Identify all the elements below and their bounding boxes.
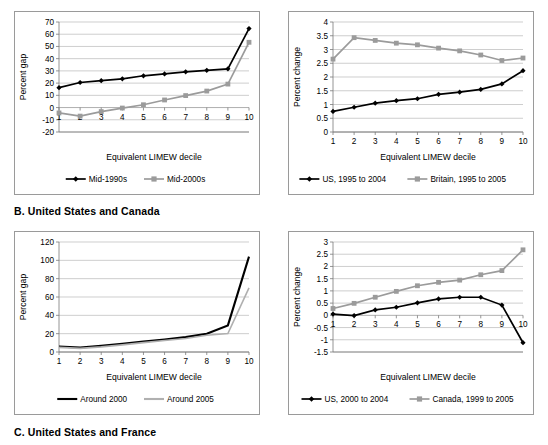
y-tick-label: 0: [323, 128, 328, 137]
x-tick-label: 6: [436, 320, 441, 329]
x-tick-label: 8: [204, 113, 209, 122]
data-point-marker: [457, 295, 462, 300]
series-line-1: [333, 297, 523, 342]
data-point-marker: [499, 58, 504, 63]
series-line-2: [59, 42, 249, 116]
legend-label: Canada, 1999 to 2005: [433, 395, 514, 404]
x-tick-label: 8: [478, 137, 483, 146]
x-tick-label: 4: [120, 113, 125, 122]
x-tick-label: 7: [183, 357, 188, 366]
x-tick-label: 4: [120, 357, 125, 366]
x-tick-label: 9: [500, 320, 505, 329]
y-tick-label: 100: [40, 256, 54, 265]
data-point-marker: [394, 41, 399, 46]
legend: US, 1995 to 2004Britain, 1995 to 2005: [299, 175, 506, 184]
y-tick-label: 3: [323, 238, 328, 247]
section-heading-c: C. United States and France: [14, 426, 156, 438]
x-tick-label: 10: [518, 137, 528, 146]
y-tick-label: 1: [323, 287, 328, 296]
data-point-marker: [352, 105, 357, 110]
y-tick-label: 50: [45, 42, 55, 51]
data-point-marker: [78, 80, 83, 85]
section-heading-b: B. United States and Canada: [14, 205, 160, 217]
data-point-marker: [352, 35, 357, 40]
chart-top-right: 00.511.522.533.5412345678910Equivalent L…: [289, 12, 533, 194]
x-axis-title: Equivalent LIMEW decile: [380, 372, 476, 382]
legend: Around 2000Around 2005: [57, 395, 214, 404]
data-point-marker: [373, 101, 378, 106]
data-point-marker: [394, 289, 399, 294]
data-point-marker: [331, 57, 336, 62]
plot-area: -1.5-1-0.500.511.522.5312345678910: [314, 238, 528, 357]
data-point-marker: [499, 268, 504, 273]
y-tick-label: 0: [323, 311, 328, 320]
data-point-marker: [521, 247, 526, 252]
chart-bottom-right: -1.5-1-0.500.511.522.5312345678910Equiva…: [289, 232, 533, 414]
data-point-marker: [141, 102, 146, 107]
x-tick-label: 6: [162, 113, 167, 122]
x-tick-label: 6: [162, 357, 167, 366]
series-line-1: [59, 29, 249, 88]
data-point-marker: [183, 69, 188, 74]
x-tick-label: 9: [226, 113, 231, 122]
x-tick-label: 10: [244, 357, 254, 366]
x-tick-label: 7: [457, 137, 462, 146]
legend-label: Britain, 1995 to 2005: [430, 175, 506, 184]
x-tick-label: 8: [204, 357, 209, 366]
y-tick-label: 20: [45, 79, 55, 88]
data-point-marker: [330, 312, 335, 317]
y-axis-title: Percent gap: [18, 274, 28, 321]
figure-page: -20-1001020304050607012345678910Equivale…: [0, 0, 548, 445]
y-tick-label: 30: [45, 67, 55, 76]
y-axis-title: Percent change: [292, 267, 302, 327]
x-tick-label: 5: [141, 113, 146, 122]
data-point-marker: [352, 313, 357, 318]
y-tick-label: 10: [45, 91, 55, 100]
x-tick-label: 9: [500, 137, 505, 146]
data-point-marker: [330, 109, 335, 114]
data-point-marker: [478, 272, 483, 277]
legend-label: Around 2005: [167, 395, 214, 404]
y-tick-label: 20: [45, 330, 55, 339]
data-point-marker: [373, 307, 378, 312]
x-tick-label: 3: [373, 137, 378, 146]
plot-area: -20-1001020304050607012345678910: [42, 18, 254, 137]
legend-label: Mid-2000s: [167, 175, 205, 184]
data-point-marker: [394, 305, 399, 310]
data-point-marker: [394, 98, 399, 103]
data-point-marker: [415, 283, 420, 288]
data-point-marker: [56, 85, 61, 90]
legend-swatch-marker: [309, 396, 315, 402]
y-tick-label: 60: [45, 293, 55, 302]
data-point-marker: [78, 114, 83, 119]
y-axis-title: Percent change: [292, 47, 302, 107]
x-tick-label: 3: [373, 320, 378, 329]
data-point-marker: [99, 109, 104, 114]
y-tick-label: -0.5: [314, 324, 329, 333]
y-tick-label: 80: [45, 275, 55, 284]
y-axis-title: Percent gap: [18, 54, 28, 101]
data-point-marker: [478, 295, 483, 300]
x-tick-label: 9: [226, 357, 231, 366]
data-point-marker: [183, 93, 188, 98]
y-tick-label: -20: [42, 128, 54, 137]
data-point-marker: [120, 106, 125, 111]
data-point-marker: [352, 301, 357, 306]
y-tick-label: 0: [49, 348, 54, 357]
data-point-marker: [120, 76, 125, 81]
x-tick-label: 5: [141, 357, 146, 366]
x-tick-label: 3: [99, 357, 104, 366]
x-axis-title: Equivalent LIMEW decile: [106, 372, 202, 382]
y-tick-label: 2: [323, 262, 328, 271]
y-tick-label: 1.5: [317, 87, 329, 96]
data-point-marker: [415, 42, 420, 47]
y-tick-label: 3: [323, 46, 328, 55]
series-line-2: [333, 38, 523, 61]
x-tick-label: 5: [415, 320, 420, 329]
legend: Mid-1990sMid-2000s: [66, 175, 205, 184]
data-point-marker: [521, 56, 526, 61]
x-tick-label: 2: [352, 320, 357, 329]
y-tick-label: 1.5: [317, 275, 329, 284]
data-point-marker: [436, 280, 441, 285]
data-point-marker: [373, 295, 378, 300]
